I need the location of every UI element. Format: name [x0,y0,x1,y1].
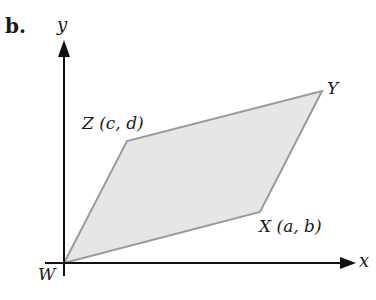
x-axis-label: x [359,250,369,271]
vertex-z-label: Z (c, d) [82,113,144,133]
diagram-graphics [0,0,376,300]
vertex-w-label: W [38,264,55,284]
y-axis-label: y [57,14,67,35]
vertex-y-label: Y [327,78,338,98]
panel-label: b. [5,14,26,38]
parallelogram-diagram: b. y x Z (c, d) Y X (a, b) W [0,0,376,300]
y-axis-arrow-icon [58,40,70,57]
vertex-x-label: X (a, b) [259,216,322,236]
x-axis-arrow-icon [340,257,356,269]
